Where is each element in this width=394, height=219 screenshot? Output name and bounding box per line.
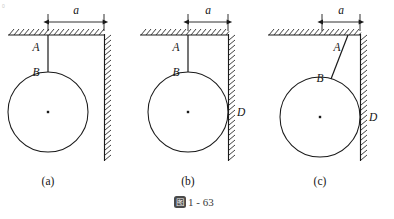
figure-caption: 图 1 - 63 <box>174 196 214 208</box>
panel-b-label-B: B <box>172 66 179 78</box>
figure-canvas: 0 <box>0 0 394 219</box>
panel-b-ceiling-hatching <box>141 29 229 35</box>
panel-c-label-A: A <box>332 41 341 53</box>
panel-a: a A B (a) <box>8 4 111 188</box>
panel-c-sphere-center-dot <box>319 116 321 118</box>
panel-c-label-D: D <box>368 111 378 123</box>
figure-number-label: 1 - 63 <box>188 196 214 208</box>
panel-c-label-B: B <box>316 72 323 84</box>
panel-c-caption: (c) <box>314 175 327 188</box>
panel-a-wall-hatching <box>105 35 111 160</box>
physics-figure-container: 0 <box>0 0 394 219</box>
panel-b: a A B D (b) <box>140 4 246 188</box>
panel-b-label-A: A <box>171 41 180 53</box>
panel-a-ceiling-hatching <box>9 29 104 35</box>
panel-b-caption: (b) <box>181 175 195 188</box>
panel-a-label-B: B <box>32 66 39 78</box>
panel-c: a A B D (c) <box>268 4 378 188</box>
panel-b-dim-label: a <box>205 4 211 16</box>
panel-c-dim-label: a <box>338 4 344 16</box>
panel-a-dim-label: a <box>73 4 79 16</box>
panel-b-wall-hatching <box>229 35 235 160</box>
panel-c-wall-hatching <box>361 35 367 160</box>
panel-b-sphere-center-dot <box>187 111 189 113</box>
panel-a-caption: (a) <box>42 175 55 188</box>
panel-a-sphere-center-dot <box>47 111 49 113</box>
panel-c-ceiling-hatching <box>269 29 361 35</box>
figure-badge-label: 图 <box>176 197 185 207</box>
panel-a-label-A: A <box>31 41 40 53</box>
corner-artifact-mark: 0 <box>2 3 5 9</box>
panel-b-label-D: D <box>236 106 246 118</box>
